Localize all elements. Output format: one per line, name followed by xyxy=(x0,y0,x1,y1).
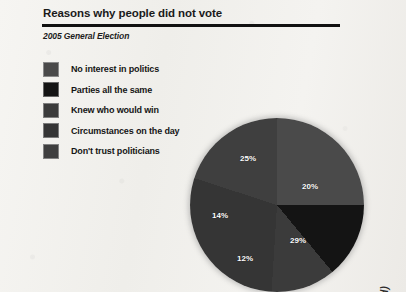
pie-slice-label: 14% xyxy=(212,211,228,220)
legend-swatch xyxy=(43,62,59,77)
pie-slice-label: 25% xyxy=(240,154,256,163)
pie-slice-label: 20% xyxy=(302,182,318,191)
pie-disc xyxy=(190,118,364,292)
legend-item-label: Don't trust politicians xyxy=(71,146,160,156)
legend-item: Don't trust politicians xyxy=(43,141,213,161)
legend-item-label: No interest in politics xyxy=(71,64,159,74)
pie-slice-label: 29% xyxy=(290,236,306,245)
pie-slice-label: 12% xyxy=(237,254,253,263)
chart-subtitle: 2005 General Election xyxy=(43,31,129,41)
legend-item-label: Knew who would win xyxy=(71,105,159,115)
legend-item: Knew who would win xyxy=(43,100,213,120)
legend-item: Circumstances on the day xyxy=(43,121,213,141)
legend-item-label: Parties all the same xyxy=(71,85,152,95)
legend-item-label: Circumstances on the day xyxy=(71,126,179,136)
legend-swatch xyxy=(43,144,59,159)
legend-item: Parties all the same xyxy=(43,80,213,100)
chart-legend: No interest in politicsParties all the s… xyxy=(43,59,213,162)
legend-swatch xyxy=(43,123,59,138)
title-divider xyxy=(42,24,340,27)
legend-item: No interest in politics xyxy=(43,59,213,79)
legend-swatch xyxy=(43,103,59,118)
source-credit: Source: British Election Study, August 2… xyxy=(379,286,390,292)
page-title: Reasons why people did not vote xyxy=(43,7,222,19)
legend-swatch xyxy=(43,82,59,97)
pie-chart: 20%29%12%14%25% xyxy=(190,118,364,292)
